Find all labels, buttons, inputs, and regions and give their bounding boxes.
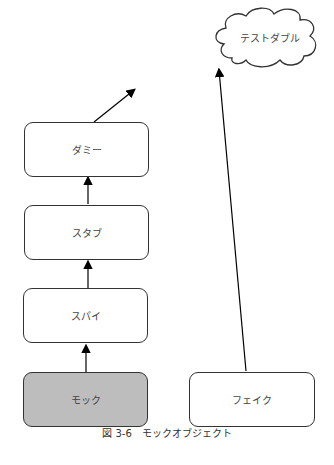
node-fake-label: フェイク xyxy=(232,392,272,407)
figure-caption: 図 3-6 モックオブジェクト xyxy=(0,425,334,440)
node-dummy-label: ダミー xyxy=(72,142,102,157)
edge-fake-cloud xyxy=(219,70,246,371)
node-mock: モック xyxy=(23,372,148,427)
node-spy-label: スパイ xyxy=(71,308,101,323)
node-spy: スパイ xyxy=(23,288,148,343)
node-stub-label: スタブ xyxy=(72,225,102,240)
node-stub: スタブ xyxy=(24,205,149,260)
node-mock-label: モック xyxy=(71,392,101,407)
node-dummy: ダミー xyxy=(24,122,149,177)
node-fake: フェイク xyxy=(189,372,315,427)
cloud-label: テストダブル xyxy=(240,30,300,45)
edge-dummy-cloud xyxy=(94,90,134,122)
